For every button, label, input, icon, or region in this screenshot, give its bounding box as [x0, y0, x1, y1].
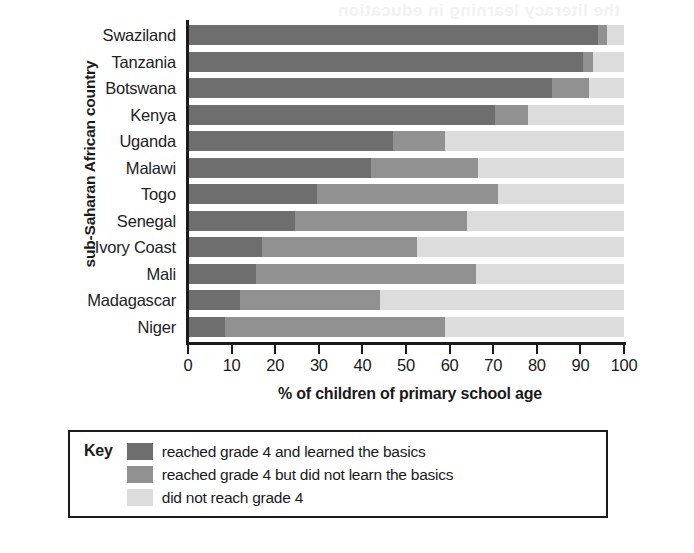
bar-segment	[256, 264, 476, 284]
bar-row	[188, 49, 624, 76]
y-axis-label: Botswana	[30, 75, 182, 102]
x-axis-tick-label: 20	[252, 356, 298, 375]
x-axis-tick	[536, 345, 538, 354]
bar-segment	[188, 131, 393, 151]
x-axis-tick	[492, 345, 494, 354]
bar-segment	[188, 78, 552, 98]
bar-segment	[380, 290, 624, 310]
bar-segment	[417, 237, 624, 257]
bar-segment	[607, 25, 624, 45]
plot-area	[188, 22, 624, 340]
x-axis-tick	[318, 345, 320, 354]
legend-label: reached grade 4 but did not learn the ba…	[162, 466, 453, 484]
stacked-bar	[188, 317, 624, 337]
bar-segment	[188, 211, 295, 231]
bar-segment	[188, 184, 317, 204]
bar-row	[188, 181, 624, 208]
y-axis-label: Kenya	[30, 102, 182, 129]
bar-row	[188, 155, 624, 182]
bar-segment	[495, 105, 528, 125]
legend-color-swatch	[127, 443, 153, 460]
bar-segment	[188, 25, 598, 45]
x-axis-tick	[187, 345, 189, 354]
x-axis-tick	[579, 345, 581, 354]
x-axis-tick	[449, 345, 451, 354]
bar-segment	[188, 264, 256, 284]
bar-row	[188, 102, 624, 129]
x-axis-tick	[361, 345, 363, 354]
legend-label: did not reach grade 4	[162, 489, 303, 507]
y-axis-label: Madagascar	[30, 287, 182, 314]
x-axis-title: % of children of primary school age	[150, 385, 670, 403]
bar-segment	[478, 158, 624, 178]
stacked-bar	[188, 158, 624, 178]
bar-row	[188, 208, 624, 235]
x-axis-tick-label: 70	[470, 356, 516, 375]
y-axis-label: Ivory Coast	[30, 234, 182, 261]
stacked-bar	[188, 52, 624, 72]
y-axis-category-labels: SwazilandTanzaniaBotswanaKenyaUgandaMala…	[30, 22, 182, 340]
bar-segment	[371, 158, 478, 178]
bar-segment	[393, 131, 445, 151]
legend-box: Key reached grade 4 and learned the basi…	[68, 430, 608, 518]
y-axis-label: Mali	[30, 261, 182, 288]
bar-segment	[598, 25, 607, 45]
legend-item: reached grade 4 but did not learn the ba…	[127, 464, 453, 485]
bar-segment	[188, 105, 495, 125]
bar-segment	[593, 52, 624, 72]
x-axis-tick-label: 40	[339, 356, 385, 375]
x-axis-tick-label: 90	[557, 356, 603, 375]
x-axis-tick	[231, 345, 233, 354]
y-axis-label: Tanzania	[30, 49, 182, 76]
y-axis-label: Swaziland	[30, 22, 182, 49]
x-axis-tick-label: 0	[165, 356, 211, 375]
legend-item: did not reach grade 4	[127, 487, 453, 508]
bar-segment	[295, 211, 467, 231]
bar-row	[188, 75, 624, 102]
stacked-bar-chart: sub-Saharan African country SwazilandTan…	[0, 0, 694, 415]
bar-segment	[467, 211, 624, 231]
y-axis-label: Niger	[30, 314, 182, 341]
bar-segment	[445, 131, 624, 151]
bar-row	[188, 261, 624, 288]
stacked-bar	[188, 105, 624, 125]
x-axis-tick-label: 30	[296, 356, 342, 375]
legend-color-swatch	[127, 466, 153, 483]
stacked-bar	[188, 211, 624, 231]
bar-segment	[528, 105, 624, 125]
legend-color-swatch	[127, 489, 153, 506]
stacked-bar	[188, 131, 624, 151]
x-axis-tick-label: 10	[209, 356, 255, 375]
bar-segment	[589, 78, 624, 98]
stacked-bar	[188, 237, 624, 257]
y-axis-label: Togo	[30, 181, 182, 208]
y-axis-line	[186, 20, 189, 342]
legend-label: reached grade 4 and learned the basics	[162, 443, 426, 461]
x-axis-tick-label: 100	[601, 356, 647, 375]
y-axis-label: Uganda	[30, 128, 182, 155]
legend-item: reached grade 4 and learned the basics	[127, 441, 453, 462]
x-axis-tick-label: 80	[514, 356, 560, 375]
bar-segment	[240, 290, 380, 310]
bar-segment	[188, 237, 262, 257]
x-axis-tick	[405, 345, 407, 354]
stacked-bar	[188, 290, 624, 310]
bar-segment	[188, 290, 240, 310]
bar-segment	[552, 78, 589, 98]
stacked-bar	[188, 264, 624, 284]
bar-segment	[188, 52, 583, 72]
bar-segment	[317, 184, 498, 204]
stacked-bar	[188, 25, 624, 45]
bar-segment	[445, 317, 624, 337]
bar-series-container	[188, 22, 624, 340]
bar-segment	[188, 158, 371, 178]
bar-segment	[498, 184, 624, 204]
x-axis-tick	[274, 345, 276, 354]
bar-segment	[476, 264, 624, 284]
bar-row	[188, 234, 624, 261]
x-axis-tick-label: 50	[383, 356, 429, 375]
y-axis-label: Malawi	[30, 155, 182, 182]
legend-items: reached grade 4 and learned the basicsre…	[127, 441, 453, 508]
bar-segment	[262, 237, 417, 257]
legend-title: Key	[84, 441, 113, 460]
